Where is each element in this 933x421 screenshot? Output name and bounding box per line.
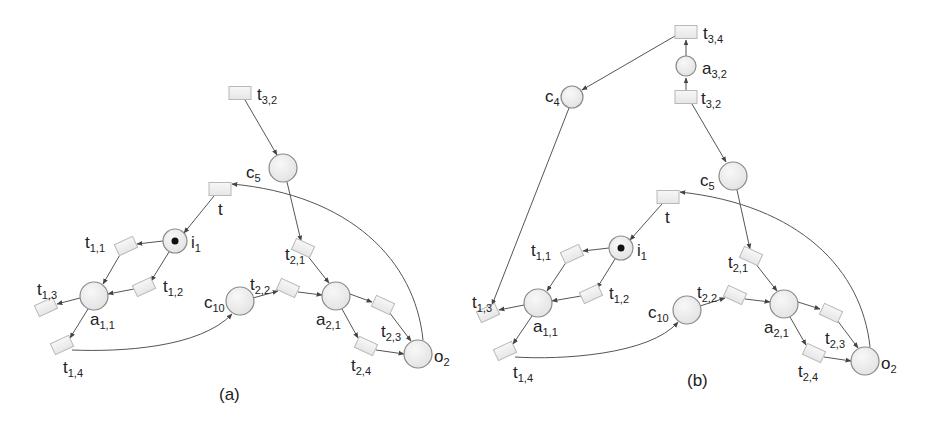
arc (245, 100, 277, 155)
place-label-o2: o2 (881, 354, 897, 375)
place-label-i1: i1 (191, 233, 201, 254)
transition-t14 (50, 335, 73, 354)
petri-net-figure: t3,2tt1,1t1,2t1,3t1,4t2,1t2,2t2,3t2,4i1c… (0, 0, 933, 421)
arc (583, 248, 609, 251)
arc (499, 305, 524, 310)
arc (692, 104, 726, 162)
place-label-i1: i1 (637, 241, 647, 262)
arc (108, 289, 134, 294)
panel-caption-b: (b) (687, 371, 708, 390)
transition-label-t32: t3,2 (257, 85, 277, 106)
arc (184, 196, 214, 233)
arc (70, 309, 88, 338)
arc (342, 309, 358, 338)
arc (755, 263, 777, 291)
transition-label-t12: t1,2 (609, 284, 629, 305)
place-label-a21: a2,1 (316, 310, 341, 331)
panel-a: t3,2tt1,1t1,2t1,3t1,4t2,1t2,2t2,3t2,4i1c… (34, 85, 449, 404)
arc (350, 294, 372, 302)
place-label-o2: o2 (434, 347, 450, 368)
transition-t24 (802, 343, 825, 362)
transition-t23 (371, 295, 394, 314)
transition-t12 (132, 277, 155, 296)
transition-t24 (354, 336, 377, 355)
arc (680, 192, 870, 347)
transition-label-t22: t2,2 (697, 283, 717, 304)
transition-t (209, 183, 231, 196)
place-label-c5: c5 (246, 163, 261, 184)
transition-label-t23: t2,3 (381, 322, 401, 343)
place-a21 (770, 290, 798, 318)
transition-t32 (229, 87, 251, 100)
transition-label-t: t (665, 208, 670, 227)
arc (582, 36, 675, 90)
arc (513, 316, 532, 344)
arc (737, 190, 750, 249)
arc (307, 255, 329, 283)
place-o2 (404, 340, 432, 368)
transition-t11 (114, 236, 137, 255)
place-c10 (226, 287, 254, 315)
arc (298, 292, 322, 295)
token-icon (618, 245, 625, 252)
transition-t32 (675, 91, 697, 104)
arc (745, 299, 770, 302)
transition-t22 (723, 285, 746, 304)
arc (137, 241, 163, 244)
transition-t34 (675, 26, 697, 39)
transition-label-t24: t2,4 (798, 362, 818, 383)
place-a32 (676, 56, 696, 76)
panel-caption-a: (a) (219, 385, 240, 404)
transition-t22 (276, 278, 299, 297)
place-label-c5: c5 (700, 171, 715, 192)
arc (287, 182, 301, 241)
panel-b: t3,4t3,2tt1,1t1,2t1,3t1,4t2,1t2,2t2,3t2,… (472, 24, 897, 390)
place-o2 (851, 347, 879, 375)
place-label-c10: c10 (204, 293, 225, 314)
transition-label-t: t (218, 200, 223, 219)
place-label-c10: c10 (648, 303, 669, 324)
transition-label-t23: t2,3 (825, 329, 845, 350)
transition-t23 (819, 303, 842, 322)
place-label-a21: a2,1 (764, 318, 789, 339)
arc (103, 253, 121, 284)
place-label-a32: a3,2 (702, 59, 727, 80)
transition-label-t11: t1,1 (85, 233, 105, 254)
transition-label-t12: t1,2 (163, 277, 183, 298)
transition-t14 (493, 341, 516, 360)
arc (547, 261, 567, 291)
arc (824, 357, 851, 361)
place-a11 (80, 282, 108, 310)
place-a21 (322, 282, 350, 310)
transition-label-t32: t3,2 (701, 89, 721, 110)
place-label-a11: a1,1 (533, 317, 558, 338)
place-label-a11: a1,1 (90, 310, 115, 331)
token-icon (172, 238, 179, 245)
place-c5 (719, 162, 747, 190)
arc (798, 302, 820, 309)
place-c10 (673, 296, 701, 324)
arc (232, 184, 423, 340)
arc (790, 317, 806, 345)
transition-label-t13: t1,3 (37, 280, 57, 301)
transition-label-t24: t2,4 (351, 356, 371, 377)
transition-label-t34: t3,4 (703, 24, 723, 45)
transition-t (657, 191, 679, 204)
transition-label-t13: t1,3 (472, 293, 492, 314)
arc (552, 296, 581, 301)
transition-label-t14: t1,4 (513, 363, 533, 384)
arc (57, 298, 80, 304)
arc (376, 350, 404, 354)
place-c4 (561, 86, 583, 108)
transition-t11 (560, 244, 583, 263)
transition-label-t11: t1,1 (531, 241, 551, 262)
transition-label-t22: t2,2 (250, 275, 270, 296)
place-c5 (269, 154, 297, 182)
transition-label-t14: t1,4 (63, 358, 83, 379)
arc (630, 204, 662, 240)
place-a11 (524, 289, 552, 317)
place-label-c4: c4 (545, 87, 560, 108)
transition-t12 (579, 284, 602, 303)
